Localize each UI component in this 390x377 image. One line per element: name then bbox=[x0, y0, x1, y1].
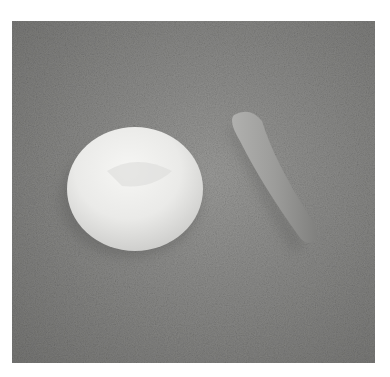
photo bbox=[12, 21, 375, 363]
photo-scene bbox=[12, 21, 375, 363]
clay-disc bbox=[67, 127, 203, 251]
